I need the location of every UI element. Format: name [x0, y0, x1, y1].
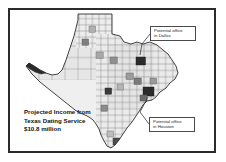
county-north-dark	[110, 57, 117, 63]
county-south-tip-dark	[113, 138, 120, 145]
el-paso-wedge	[26, 63, 46, 74]
caption-line-2: Texas Dating Service	[24, 117, 108, 126]
texas-county-map	[0, 0, 226, 162]
callout-houston-line2: in Houston	[153, 125, 191, 130]
callout-dallas[interactable]: Potential office in Dallas	[150, 26, 196, 41]
county-dallas-darkest	[136, 57, 146, 65]
county-houston-darkest	[143, 87, 154, 96]
county-northcentral-medium	[96, 52, 103, 58]
county-central-dark	[126, 73, 133, 79]
caption-line-1: Projected Income from	[24, 108, 108, 117]
figure-root: Potential office in Dallas Potential off…	[0, 0, 226, 162]
county-sanantonio-dark	[105, 88, 112, 94]
caption-line-3: $10.8 million	[24, 125, 108, 134]
county-austin-medium	[117, 84, 123, 90]
county-panhandle-dark	[82, 39, 89, 45]
county-eastcoast-medium	[150, 78, 157, 84]
figure-caption: Projected Income from Texas Dating Servi…	[24, 108, 108, 134]
callout-dallas-line2: in Dallas	[154, 34, 192, 39]
callout-houston[interactable]: Potential office in Houston	[149, 117, 195, 132]
county-panhandle-medium	[89, 26, 96, 32]
county-central-darker	[134, 78, 141, 84]
